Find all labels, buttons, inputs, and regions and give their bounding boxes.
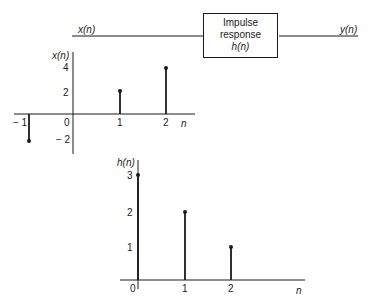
xn-xtick-1: 1 [117,117,123,128]
hn-dot-0 [136,173,140,177]
xn-dot-m1 [27,139,31,143]
hn-dot-1 [183,210,187,214]
xn-ytick-neg2: − 2 [56,134,70,145]
output-signal-label: y(n) [340,24,357,35]
hn-xaxis-label: n [296,285,302,296]
xn-xtick-0: 0 [64,117,70,128]
input-signal-label: x(n) [78,24,95,35]
hn-axis-title: h(n) [117,157,135,168]
xn-xaxis-label: n [181,118,187,129]
xn-axis-title: x(n) [52,50,69,61]
xn-ytick-4: 4 [63,62,69,73]
xn-dot-2 [164,66,168,70]
xn-xtick-neg1: − 1 [13,117,27,128]
diagram-canvas [0,0,369,307]
hn-stem-plot [120,160,305,289]
xn-stem-plot [14,52,195,154]
hn-xtick-1: 1 [182,283,188,294]
xn-dot-1 [118,89,122,93]
hn-xtick-0: 0 [130,283,136,294]
hn-ytick-2: 2 [127,207,133,218]
block-label-line2: response [204,29,277,41]
xn-ytick-2: 2 [63,87,69,98]
block-label-line1: Impulse [204,17,277,29]
hn-ytick-1: 1 [127,242,133,253]
hn-dot-2 [229,245,233,249]
block-label-line3: h(n) [204,41,277,53]
hn-ytick-3: 3 [127,170,133,181]
hn-xtick-2: 2 [228,283,234,294]
xn-xtick-2: 2 [163,117,169,128]
impulse-response-block: Impulse response h(n) [203,13,278,58]
